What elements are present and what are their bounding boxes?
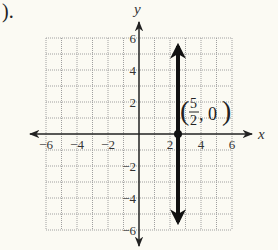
x-tick-label: −2 xyxy=(101,137,115,152)
x-tick-label: 4 xyxy=(198,137,205,152)
y-tick-label: 2 xyxy=(130,95,137,110)
y-tick-label: 6 xyxy=(130,31,137,46)
y-tick-label: 4 xyxy=(130,63,137,78)
y-tick-label: −6 xyxy=(122,223,136,238)
svg-text:(: ( xyxy=(180,95,189,126)
y-tick-label: −4 xyxy=(122,191,136,206)
x-tick-label: −4 xyxy=(70,137,84,152)
coordinate-graph: y x −6−4−2246 642−2−4−6 ( 5 2 , 0 ) xyxy=(0,0,278,250)
svg-text:5: 5 xyxy=(190,96,197,111)
x-tick-label: 6 xyxy=(229,137,236,152)
svg-text:2: 2 xyxy=(190,113,197,128)
y-axis-label: y xyxy=(132,1,141,17)
x-axis-label: x xyxy=(257,126,265,142)
x-tick-label: −6 xyxy=(39,137,53,152)
svg-text:): ) xyxy=(222,95,231,126)
point-label: ( 5 2 , 0 ) xyxy=(180,95,231,128)
point-5-2-0 xyxy=(174,130,182,138)
y-tick-label: −2 xyxy=(122,159,136,174)
x-tick-label: 2 xyxy=(167,137,174,152)
svg-text:, 0: , 0 xyxy=(199,104,217,124)
